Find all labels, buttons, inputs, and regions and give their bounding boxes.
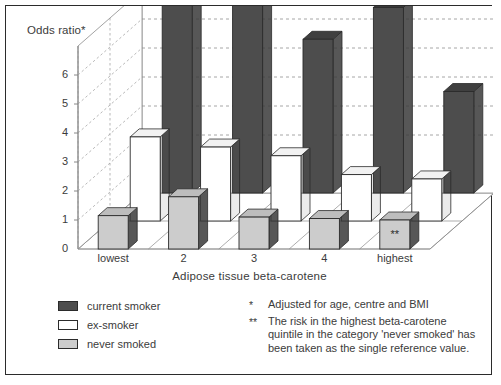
x-axis-tick: 4	[289, 252, 359, 264]
footnote-marker: **	[249, 315, 268, 356]
legend-item: ex-smoker	[58, 317, 160, 333]
x-axis-tick: 2	[149, 252, 219, 264]
legend-item: never smoked	[58, 336, 160, 352]
y-axis-tick: 0	[54, 242, 68, 254]
y-axis-tick: 4	[54, 126, 68, 138]
legend-swatch	[58, 339, 78, 349]
footnote-text: Adjusted for age, centre and BMI	[268, 298, 429, 312]
footnote-text: The risk in the highest beta-carotene qu…	[268, 315, 481, 356]
y-axis-tick: 5	[54, 97, 68, 109]
x-axis-tick: highest	[360, 252, 430, 264]
footnote: **The risk in the highest beta-carotene …	[249, 315, 481, 356]
x-axis-title: Adipose tissue beta-carotene	[6, 270, 493, 282]
x-axis-tick-labels: lowest234highest	[6, 6, 493, 274]
chart-legend: current smokerex-smokernever smoked	[58, 298, 160, 355]
x-axis-tick: 3	[219, 252, 289, 264]
legend-label: current smoker	[87, 300, 160, 312]
footnote: *Adjusted for age, centre and BMI	[249, 298, 481, 312]
y-axis-tick: 6	[54, 68, 68, 80]
chart-footnotes: *Adjusted for age, centre and BMI**The r…	[249, 298, 481, 358]
figure-frame: Odds ratio* ** lowest234highest Adipose …	[5, 5, 492, 375]
legend-swatch	[58, 301, 78, 311]
chart-plot-area: Odds ratio* ** lowest234highest Adipose …	[6, 6, 493, 274]
legend-item: current smoker	[58, 298, 160, 314]
legend-label: ex-smoker	[87, 319, 138, 331]
footnote-marker: *	[249, 298, 268, 312]
y-axis-tick: 3	[54, 155, 68, 167]
x-axis-tick: lowest	[78, 252, 148, 264]
legend-label: never smoked	[87, 338, 156, 350]
y-axis-tick: 2	[54, 184, 68, 196]
legend-swatch	[58, 320, 78, 330]
y-axis-tick: 1	[54, 213, 68, 225]
